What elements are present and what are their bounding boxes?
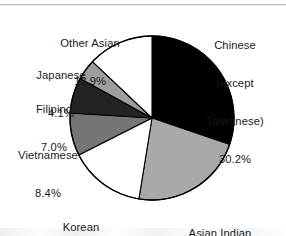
- slice-label-chinese: Chinese (except Taiwanese) 30.2%: [186, 14, 284, 190]
- pie-chart-figure: Chinese (except Taiwanese) 30.2% Other A…: [0, 0, 286, 236]
- slice-label-korean: Korean 15.0%: [42, 196, 120, 236]
- slice-label-asian-indian: Asian Indian 22.3%: [168, 202, 272, 236]
- slice-label-chinese-line2: (except: [186, 77, 284, 90]
- slice-label-chinese-line1: Chinese: [186, 39, 284, 52]
- slice-label-vietnamese-line1: Vietnamese: [0, 149, 96, 162]
- slice-label-asian-indian-line1: Asian Indian: [168, 227, 272, 236]
- slice-label-chinese-line3: Taiwanese): [186, 115, 284, 128]
- slice-value-chinese: 30.2%: [186, 153, 284, 166]
- slice-label-filipino-line1: Filipino: [12, 103, 96, 116]
- slice-label-korean-line1: Korean: [42, 221, 120, 234]
